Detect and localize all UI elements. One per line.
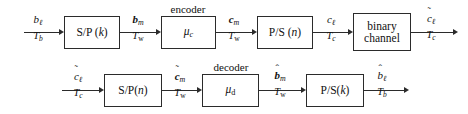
- block-encoder-label: μc: [184, 25, 193, 40]
- signal-b-m-hat: ˆbm Tw: [256, 70, 304, 99]
- signal-b-m-hat-symbol: ˆbm: [256, 70, 304, 83]
- caption-encoder: encoder: [160, 3, 216, 15]
- signal-b-m-hat-period: Tw: [256, 87, 304, 99]
- signal-c-m-tilde-period: Tw: [156, 88, 204, 100]
- signal-b-l-in-period: Tb: [14, 31, 62, 43]
- block-ps-n[interactable]: P/S (n): [257, 16, 313, 49]
- signal-c-m: cm Tw: [210, 14, 258, 43]
- block-encoder[interactable]: μc: [161, 16, 216, 49]
- signal-c-m-tilde: ˜cm Tw: [156, 71, 204, 100]
- block-ps-k-label: P/S(k): [321, 84, 350, 96]
- block-sp-n-label: S/P(n): [118, 84, 147, 96]
- signal-b-m: bm Tw: [114, 14, 162, 43]
- block-decoder[interactable]: μd: [202, 74, 259, 107]
- signal-b-l-hat-period: Tb: [358, 87, 406, 99]
- signal-b-m-period: Tw: [114, 31, 162, 43]
- signal-c-m-symbol: cm: [210, 14, 258, 27]
- signal-c-l-tilde-out: ˜cℓ Tc: [407, 13, 455, 42]
- block-diagram: bℓ Tb S/P (k) bm Tw encoder μc cm Tw P/S…: [0, 0, 468, 114]
- block-ps-n-label: P/S (n): [269, 26, 301, 38]
- signal-c-l-tilde-in-symbol: ˜cℓ: [54, 71, 102, 84]
- signal-b-l-hat: ˆbℓ Tb: [358, 70, 406, 99]
- signal-c-l-tilde-out-symbol: ˜cℓ: [407, 13, 455, 26]
- block-binary-channel-label-line1: binary: [367, 20, 396, 32]
- signal-c-l: cℓ Tc: [307, 14, 355, 43]
- block-binary-channel[interactable]: binary channel: [353, 13, 411, 51]
- block-sp-k[interactable]: S/P (k): [64, 16, 120, 49]
- signal-c-m-period: Tw: [210, 31, 258, 43]
- signal-c-l-tilde-in: ˜cℓ Tc: [54, 71, 102, 100]
- block-decoder-label: μd: [226, 83, 236, 98]
- signal-b-m-symbol: bm: [114, 14, 162, 27]
- block-sp-k-label: S/P (k): [76, 26, 107, 38]
- signal-c-l-period: Tc: [307, 31, 355, 43]
- signal-c-l-tilde-out-period: Tc: [407, 30, 455, 42]
- block-sp-n[interactable]: S/P(n): [104, 74, 162, 107]
- block-ps-k[interactable]: P/S(k): [306, 74, 364, 107]
- block-binary-channel-label-line2: channel: [364, 32, 400, 44]
- signal-c-l-symbol: cℓ: [307, 14, 355, 27]
- signal-c-m-tilde-symbol: ˜cm: [156, 71, 204, 84]
- signal-b-l-in-symbol: bℓ: [14, 14, 62, 27]
- signal-c-l-tilde-in-period: Tc: [54, 88, 102, 100]
- caption-decoder: decoder: [202, 61, 260, 73]
- signal-b-l-in: bℓ Tb: [14, 14, 62, 43]
- signal-b-l-hat-symbol: ˆbℓ: [358, 70, 406, 83]
